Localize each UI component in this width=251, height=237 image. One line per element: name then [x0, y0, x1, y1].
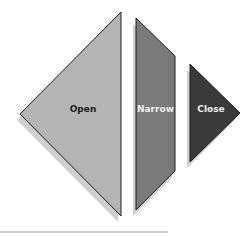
narrow-shape	[136, 18, 175, 210]
diagram-canvas: Open Narrow Close	[0, 0, 251, 237]
open-shape	[20, 12, 121, 216]
narrow-label: Narrow	[137, 104, 174, 114]
open-label: Open	[70, 104, 97, 114]
close-label: Close	[197, 104, 224, 114]
